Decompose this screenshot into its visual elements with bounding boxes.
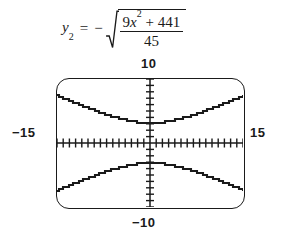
equation-expression: y2 = − 9x2 + 441 45 [62,8,186,48]
graph-plot [57,79,243,207]
numerator-exponent: 2 [137,8,142,19]
fraction-numerator: 9x2 + 441 [120,11,184,32]
calculator-screen [56,78,245,209]
fraction-denominator: 45 [141,32,162,49]
y-max-label: 10 [141,56,156,71]
equation-block: y2 = − 9x2 + 441 45 [0,0,281,58]
calculator-figure: 10 −10 −15 15 [0,55,281,247]
y-min-label: −10 [132,215,156,230]
x-max-label: 15 [250,125,265,140]
numerator-coefficient: 9 [123,14,131,30]
fraction: 9x2 + 441 45 [120,11,184,49]
x-min-label: −15 [12,125,36,140]
negative-sign: − [94,20,102,37]
equation-lhs: y2 [62,19,74,38]
equation-lhs-variable: y [62,19,69,35]
equation-lhs-subscript: 2 [69,31,74,42]
numerator-variable: x [130,14,137,30]
numerator-plus-sign: + [146,14,154,30]
radical-expression: 9x2 + 441 45 [106,9,187,49]
figure-page: y2 = − 9x2 + 441 45 10 −10 − [0,0,281,247]
numerator-constant: 441 [158,14,181,30]
radicand: 9x2 + 441 45 [118,9,187,49]
equals-sign: = [80,20,88,37]
